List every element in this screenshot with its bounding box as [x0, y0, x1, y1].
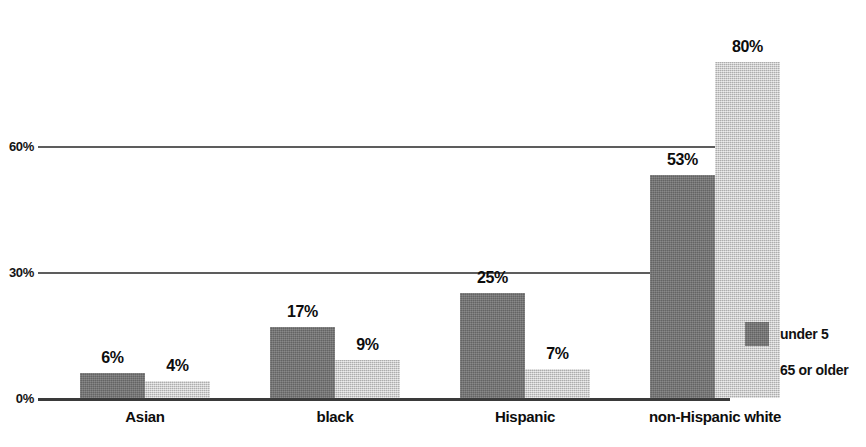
bar-value-label: 7%	[546, 345, 568, 363]
y-tick-label-2: 60%	[0, 139, 34, 154]
axis-baseline	[38, 398, 730, 401]
bar-hispanic-under-5	[460, 293, 525, 398]
x-axis-category-label: black	[317, 408, 354, 425]
chart-legend: under 5 65 or older	[745, 322, 848, 394]
bar-chart: 0% 30% 60% under 5 65 or older 6%4%Asian…	[0, 0, 866, 447]
x-axis-category-label: non-Hispanic white	[649, 408, 781, 425]
bar-value-label: 9%	[356, 336, 378, 354]
x-axis-category-label: Asian	[125, 408, 164, 425]
y-axis: 0% 30% 60%	[0, 20, 34, 398]
bar-value-label: 25%	[477, 269, 508, 287]
bar-value-label: 80%	[732, 38, 763, 56]
legend-item-under-5: under 5	[745, 322, 848, 346]
bars-layer	[38, 20, 735, 398]
bar-value-label: 53%	[667, 151, 698, 169]
bar-asian-65-or-older	[145, 381, 210, 398]
bar-non-hispanic-white-under-5	[650, 175, 715, 398]
bar-hispanic-65-or-older	[525, 369, 590, 398]
y-tick-label-0: 0%	[0, 391, 34, 406]
legend-label-under-5: under 5	[780, 326, 828, 342]
bar-value-label: 6%	[101, 349, 123, 367]
legend-item-65-or-older: 65 or older	[745, 358, 848, 382]
y-tick-label-1: 30%	[0, 265, 34, 280]
legend-label-65-or-older: 65 or older	[780, 362, 848, 378]
x-axis-category-label: Hispanic	[495, 408, 555, 425]
bar-black-65-or-older	[335, 360, 400, 398]
legend-swatch-icon-under-5	[745, 322, 769, 346]
bar-value-label: 4%	[166, 357, 188, 375]
bar-asian-under-5	[80, 373, 145, 398]
legend-swatch-icon-65-or-older	[745, 358, 769, 382]
bar-value-label: 17%	[287, 303, 318, 321]
bar-black-under-5	[270, 327, 335, 398]
